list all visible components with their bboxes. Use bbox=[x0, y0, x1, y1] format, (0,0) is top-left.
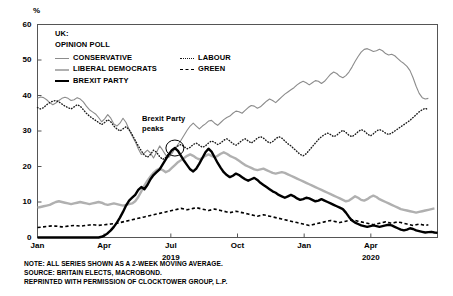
legend-label-libdem: LIBERAL DEMOCRATS bbox=[73, 63, 157, 74]
legend-item-green: GREEN bbox=[180, 63, 225, 74]
annotation-line1: Brexit Party bbox=[142, 114, 185, 124]
y-tick-label-40: 40 bbox=[16, 91, 32, 100]
legend-item-libdem: LIBERAL DEMOCRATS bbox=[55, 63, 180, 74]
legend-header-line1: UK: bbox=[55, 28, 231, 39]
x-tick-label-5: Apr bbox=[351, 241, 391, 250]
legend-swatch-conservative-icon bbox=[55, 53, 69, 62]
y-tick-label-50: 50 bbox=[16, 55, 32, 64]
y-tick-label-20: 20 bbox=[16, 162, 32, 171]
legend-row-3: BREXIT PARTY bbox=[55, 75, 231, 86]
series-line-liberal-democrats bbox=[38, 152, 435, 212]
annotation-line2: peaks bbox=[142, 124, 185, 134]
brexit-peaks-annotation: Brexit Party peaks bbox=[142, 114, 185, 133]
legend-label-green: GREEN bbox=[198, 63, 225, 74]
x-year-label-2020: 2020 bbox=[351, 253, 391, 262]
y-tick-label-60: 60 bbox=[16, 20, 32, 29]
legend-swatch-libdem-icon bbox=[55, 64, 69, 73]
chart-footnote: NOTE: ALL SERIES SHOWN AS A 2-WEEK MOVIN… bbox=[24, 259, 227, 287]
legend-label-conservative: CONSERVATIVE bbox=[73, 52, 132, 63]
y-tick-label-10: 10 bbox=[16, 197, 32, 206]
footnote-source: SOURCE: BRITAIN ELECTS, MACROBOND. bbox=[24, 268, 227, 277]
legend-label-labour: LABOUR bbox=[198, 52, 231, 63]
x-tick-label-2: Jul bbox=[151, 241, 191, 250]
x-tick-label-1: Apr bbox=[84, 241, 124, 250]
y-tick-label-30: 30 bbox=[16, 126, 32, 135]
x-tick-label-4: Jan bbox=[284, 241, 324, 250]
series-line-green bbox=[38, 208, 429, 228]
legend-swatch-brexit-icon bbox=[55, 76, 69, 85]
legend-item-labour: LABOUR bbox=[180, 52, 231, 63]
legend-header-line2: OPINION POLL bbox=[55, 39, 231, 50]
legend-item-conservative: CONSERVATIVE bbox=[55, 52, 180, 63]
x-tick-label-3: Oct bbox=[218, 241, 258, 250]
legend-label-brexit: BREXIT PARTY bbox=[73, 75, 129, 86]
legend-row-1: CONSERVATIVE LABOUR bbox=[55, 52, 231, 63]
footnote-note: NOTE: ALL SERIES SHOWN AS A 2-WEEK MOVIN… bbox=[24, 259, 227, 268]
x-tick-label-0: Jan bbox=[18, 241, 58, 250]
legend-swatch-green-icon bbox=[180, 64, 194, 73]
series-line-labour bbox=[38, 100, 429, 159]
footnote-permission: REPRINTED WITH PERMISSION OF CLOCKTOWER … bbox=[24, 277, 227, 286]
legend-item-brexit: BREXIT PARTY bbox=[55, 75, 180, 86]
legend-row-2: LIBERAL DEMOCRATS GREEN bbox=[55, 63, 231, 74]
chart-legend: UK: OPINION POLL CONSERVATIVE LABOUR LIB… bbox=[55, 28, 231, 86]
opinion-poll-chart-figure: % UK: OPINION POLL CONSERVATIVE LABOUR L… bbox=[0, 0, 453, 296]
legend-swatch-labour-icon bbox=[180, 53, 194, 62]
